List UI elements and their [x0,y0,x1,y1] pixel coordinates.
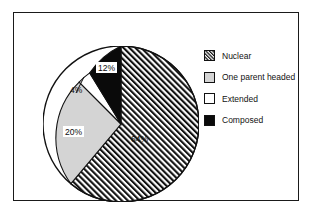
pie-svg [43,46,199,202]
gray-swatch-icon [204,72,215,83]
legend-label-one-parent-headed: One parent headed [222,72,295,82]
legend-item-composed[interactable]: Composed [204,110,308,132]
pie-label-one-parent-headed: 20% [63,126,84,137]
chart-legend: Nuclear One parent headed Extended Compo… [204,45,308,131]
pie-label-extended: 4% [70,85,82,95]
black-swatch-icon [204,115,215,126]
legend-item-nuclear[interactable]: Nuclear [204,45,308,67]
white-swatch-icon [204,93,215,104]
pie-label-composed: 12% [96,62,117,73]
pie-label-nuclear: 64% [131,134,148,144]
legend-label-composed: Composed [222,115,263,125]
pie-chart [43,46,199,202]
pie-chart-figure: 64% 20% 4% 12% Nuclear One parent headed… [0,0,312,214]
hatch-swatch-icon [204,50,215,61]
legend-item-one-parent-headed[interactable]: One parent headed [204,67,308,89]
legend-item-extended[interactable]: Extended [204,88,308,110]
chart-frame-border: 64% 20% 4% 12% Nuclear One parent headed… [13,12,299,201]
legend-label-extended: Extended [222,94,258,104]
legend-label-nuclear: Nuclear [222,51,251,61]
